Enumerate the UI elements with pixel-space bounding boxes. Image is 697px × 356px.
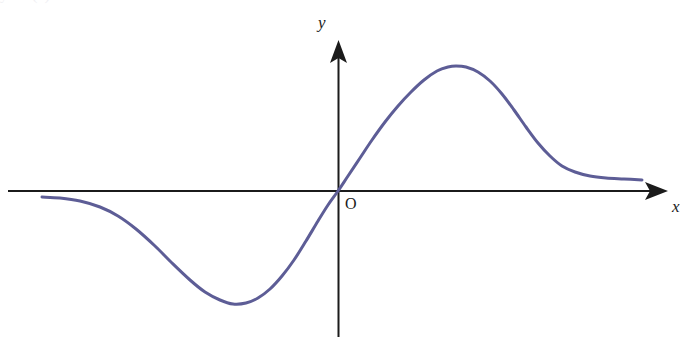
function-curve xyxy=(42,66,642,304)
x-axis-label: x xyxy=(672,198,680,215)
origin-label: O xyxy=(345,196,357,212)
graph-canvas xyxy=(0,0,697,356)
figure-root: y = f (x) y x O xyxy=(0,0,697,356)
y-axis-label: y xyxy=(318,14,326,31)
